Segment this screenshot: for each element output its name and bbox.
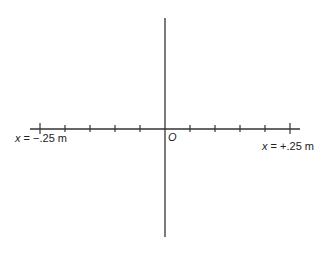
right-endpoint-label: x = +.25 m (262, 141, 314, 152)
left-endpoint-label: x = −.25 m (15, 133, 67, 144)
left-label-value: = −.25 m (21, 132, 67, 144)
origin-label: O (168, 132, 177, 143)
axes-diagram (0, 0, 329, 255)
right-label-value: = +.25 m (268, 140, 314, 152)
